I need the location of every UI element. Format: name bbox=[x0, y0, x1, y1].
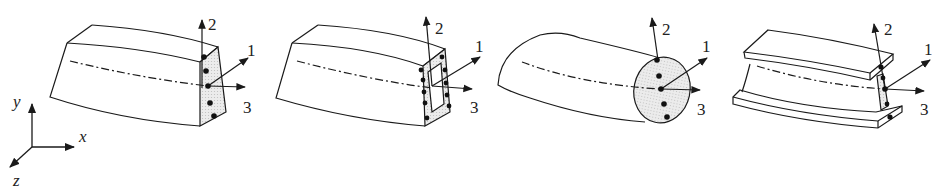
z-axis-label: z bbox=[12, 171, 20, 190]
panel2-axis-1-label: 1 bbox=[475, 37, 484, 56]
panel4-axis-2-label: 2 bbox=[884, 20, 893, 39]
panel1-axis-1-label: 1 bbox=[247, 41, 256, 60]
panel-hollow-box bbox=[276, 17, 480, 126]
y-axis-label: y bbox=[11, 92, 21, 111]
panel-solid-rectangle bbox=[50, 20, 248, 126]
panel3-axis-3-label: 3 bbox=[697, 100, 706, 119]
panel3-axis-2-label: 2 bbox=[662, 20, 671, 39]
panel4-axis-3-label: 3 bbox=[920, 100, 929, 119]
global-axes bbox=[10, 104, 74, 167]
panel3-axis-1-label: 1 bbox=[702, 37, 711, 56]
panel4-axis-1-label: 1 bbox=[924, 40, 933, 59]
panel1-axis-2-label: 2 bbox=[208, 15, 217, 34]
panel-solid-circle bbox=[498, 18, 707, 128]
beam-section-diagram: y x z 2 1 3 bbox=[0, 0, 937, 191]
z-axis-arrow-icon bbox=[10, 147, 32, 167]
panel1-axis-3-label: 3 bbox=[243, 98, 252, 117]
x-axis-label: x bbox=[78, 127, 87, 146]
panel2-axis-3-label: 3 bbox=[470, 98, 479, 117]
panel2-axis-2-label: 2 bbox=[435, 19, 444, 38]
panel-i-beam bbox=[733, 24, 930, 128]
